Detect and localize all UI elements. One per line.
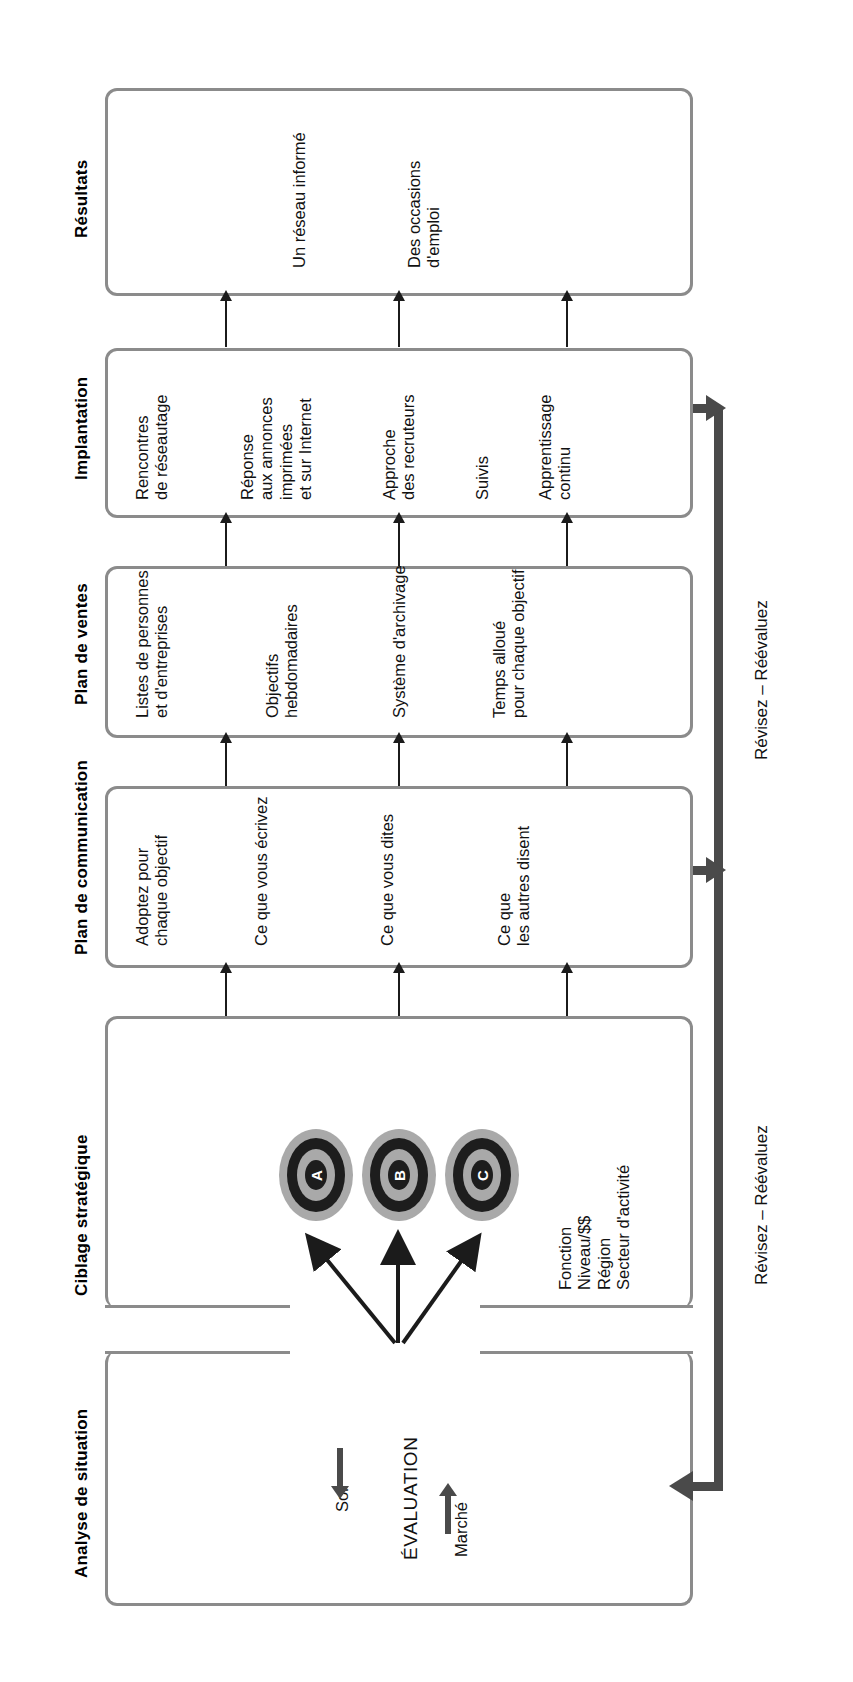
connector-implantation-resultats-2 xyxy=(398,299,400,347)
item-text-line: d'emploi xyxy=(424,161,443,268)
item-text-line: pour chaque objectif xyxy=(509,569,528,718)
target-a: A xyxy=(279,1129,353,1221)
connector-implantation-resultats-3 xyxy=(566,299,568,347)
stage-item-ventes-3: Temps alloué pour chaque objectif xyxy=(490,569,529,718)
arrow-marche-shaft xyxy=(445,1496,451,1534)
connector-ventes-implantation-1 xyxy=(225,521,227,566)
item-text-line: les autres disent xyxy=(514,826,533,946)
feedback-loop-return-arrow xyxy=(669,1471,693,1501)
target-label: B xyxy=(391,1170,408,1181)
feedback-loop-arrow-communication xyxy=(706,857,726,883)
item-text-line: chaque objectif xyxy=(152,835,171,946)
arrow-marche-head xyxy=(439,1483,457,1496)
stage-heading-plan-de-communication: Plan de communication xyxy=(72,760,92,955)
stage-item-implantation-0: Rencontres de réseautage xyxy=(133,394,172,500)
target-label: A xyxy=(308,1170,325,1181)
criteria-item: Fonction xyxy=(556,1165,575,1290)
item-text: Un réseau informé xyxy=(290,132,308,268)
stage-box-analyse-de-situation xyxy=(105,1351,693,1606)
feedback-loop-label-communication: Révisez – Réévaluez xyxy=(752,1125,772,1285)
stage-item-communication-3: Ce que les autres disent xyxy=(495,826,534,946)
stage-item-ventes-0: Listes de personnes et d'entreprises xyxy=(133,570,172,718)
target-bullseye: B xyxy=(388,1160,410,1190)
feedback-loop-return-segment xyxy=(693,1482,723,1491)
target-bullseye: C xyxy=(471,1160,493,1190)
stage-heading-implantation: Implantation xyxy=(72,377,92,480)
target-bullseye: A xyxy=(305,1160,327,1190)
item-text-line: hebdomadaires xyxy=(282,604,301,718)
item-text-line: Listes de personnes xyxy=(133,570,152,718)
stage-item-communication-0: Adoptez pour chaque objectif xyxy=(133,835,172,946)
stage-item-communication-2: Ce que vous dites xyxy=(378,814,397,946)
arrow-to-target-c xyxy=(403,1239,477,1343)
item-text-line: Temps alloué xyxy=(490,569,509,718)
stage-item-ventes-2: Système d'archivage xyxy=(390,565,409,718)
stage-box-analyse-top-right-segment xyxy=(480,1351,693,1354)
item-text-line: imprimées xyxy=(277,397,296,500)
connector-ciblage-communication-1 xyxy=(225,971,227,1016)
connector-communication-ventes-2 xyxy=(398,741,400,786)
feedback-loop-label-implantation: Révisez – Réévaluez xyxy=(752,600,772,760)
stage-heading-resultats: Résultats xyxy=(72,160,92,238)
item-text-line: aux annonces xyxy=(257,397,276,500)
stage-item-implantation-3: Suivis xyxy=(473,456,492,500)
stage-heading-ciblage-strategique: Ciblage stratégique xyxy=(72,1134,92,1296)
item-text-line: continu xyxy=(555,395,574,501)
target-b: B xyxy=(362,1129,436,1221)
item-text-line: Ce que vous dites xyxy=(378,814,397,946)
target-ring-outer: A xyxy=(287,1138,345,1212)
evaluation-input-marche: Marché xyxy=(452,1502,471,1557)
evaluation-label: ÉVALUATION xyxy=(400,1436,422,1560)
stage-item-resultats-0: Un réseau informé xyxy=(290,132,309,268)
stage-box-analyse-top-left-segment xyxy=(105,1351,290,1354)
stage-heading-plan-de-ventes: Plan de ventes xyxy=(72,583,92,705)
item-text-line: Suivis xyxy=(473,456,492,500)
arrow-to-target-a xyxy=(310,1239,395,1343)
target-c: C xyxy=(445,1129,519,1221)
stage-box-plan-de-communication xyxy=(105,786,693,968)
stage-item-implantation-4: Apprentissage continu xyxy=(536,395,575,501)
feedback-loop-spine xyxy=(714,408,723,1490)
criteria-item: Région xyxy=(595,1165,614,1290)
item-text-line: Adoptez pour xyxy=(133,835,152,946)
stage-item-ventes-1: Objectifs hebdomadaires xyxy=(263,604,302,718)
diagram-canvas: Résultats Un réseau informé Des occasion… xyxy=(0,0,853,1682)
stage-item-communication-1: Ce que vous écrivez xyxy=(252,797,271,947)
target-ring-inner: B xyxy=(380,1149,418,1201)
connector-implantation-resultats-1 xyxy=(225,299,227,347)
item-text-line: Objectifs xyxy=(263,604,282,718)
stage-box-resultats xyxy=(105,88,693,296)
item-text-line: Système d'archivage xyxy=(390,565,409,718)
connector-communication-ventes-3 xyxy=(566,741,568,786)
target-ring-outer: B xyxy=(370,1138,428,1212)
item-text-line: Des occasions xyxy=(405,161,424,268)
connector-ciblage-communication-3 xyxy=(566,971,568,1016)
target-label: C xyxy=(474,1170,491,1181)
stage-heading-analyse-de-situation: Analyse de situation xyxy=(72,1409,92,1578)
target-ring-inner: A xyxy=(297,1149,335,1201)
connector-ventes-implantation-2 xyxy=(398,521,400,566)
item-text-line: Approche xyxy=(380,395,399,500)
ciblage-criteria-list: Fonction Niveau/$$ Région Secteur d'acti… xyxy=(556,1165,634,1290)
item-text-line: Ce que vous écrivez xyxy=(252,797,271,947)
item-text-line: Rencontres xyxy=(133,394,152,500)
connector-communication-ventes-1 xyxy=(225,741,227,786)
item-text-line: de réseautage xyxy=(152,394,171,500)
target-ring-outer: C xyxy=(453,1138,511,1212)
item-text-line: Apprentissage xyxy=(536,395,555,501)
item-text-line: et sur Internet xyxy=(296,397,315,500)
feedback-loop-arrow-implantation xyxy=(706,395,726,421)
arrow-soi-shaft xyxy=(337,1448,343,1486)
item-text-line: des recruteurs xyxy=(399,395,418,500)
stage-item-implantation-1: Réponse aux annonces imprimées et sur In… xyxy=(238,397,316,500)
item-text-line: Ce que xyxy=(495,826,514,946)
criteria-item: Niveau/$$ xyxy=(575,1165,594,1290)
target-ring-inner: C xyxy=(463,1149,501,1201)
arrow-soi-head xyxy=(331,1486,349,1499)
connector-ventes-implantation-3 xyxy=(566,521,568,566)
item-text-line: Réponse xyxy=(238,397,257,500)
connector-ciblage-communication-2 xyxy=(398,971,400,1016)
stage-item-resultats-1: Des occasions d'emploi xyxy=(405,161,444,268)
evaluation-to-targets-arrows xyxy=(255,1225,525,1350)
item-text-line: et d'entreprises xyxy=(152,570,171,718)
